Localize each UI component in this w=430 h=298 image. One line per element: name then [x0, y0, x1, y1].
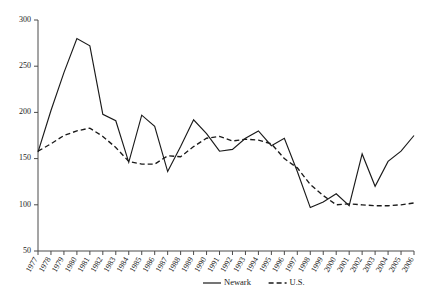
x-tick-label: 1997 [283, 256, 299, 274]
x-tick-label: 1989 [180, 256, 196, 274]
x-tick-label: 2001 [335, 256, 351, 274]
x-tick-label: 1982 [89, 256, 105, 274]
x-tick-label: 1980 [63, 256, 79, 274]
y-tick-label: 250 [19, 61, 31, 70]
legend-label-newark: Newark [224, 277, 252, 287]
x-tick-label: 1990 [192, 256, 208, 274]
y-tick-label: 50 [23, 246, 31, 255]
x-tick-label: 2004 [374, 256, 390, 274]
x-tick-label: 1988 [167, 256, 183, 274]
chart-legend: NewarkU.S. [203, 277, 305, 287]
y-tick-label: 200 [19, 107, 31, 116]
x-tick-label: 1992 [218, 256, 234, 274]
series-line-u-s [38, 128, 414, 206]
y-axis: 50100150200250300 [19, 15, 38, 255]
x-tick-label: 2003 [361, 256, 377, 274]
y-tick-label: 150 [19, 153, 31, 162]
x-tick-label: 1993 [231, 256, 247, 274]
x-tick-label: 1999 [309, 256, 325, 274]
y-tick-label: 300 [19, 15, 31, 24]
x-tick-label: 1978 [37, 256, 53, 274]
x-tick-label: 1983 [102, 256, 118, 274]
x-tick-label: 1984 [115, 256, 131, 274]
x-tick-label: 1979 [50, 256, 66, 274]
y-tick-label: 100 [19, 200, 31, 209]
x-tick-label: 1998 [296, 256, 312, 274]
x-tick-label: 1985 [128, 256, 144, 274]
x-axis: 1977197819791980198119821983198419851986… [24, 251, 416, 274]
chart-canvas: 50100150200250300 1977197819791980198119… [0, 0, 430, 298]
x-tick-label: 1995 [257, 256, 273, 274]
x-tick-label: 2006 [400, 256, 416, 274]
data-series-group [38, 38, 414, 207]
x-tick-label: 1987 [154, 256, 170, 274]
x-tick-label: 1977 [24, 256, 40, 274]
x-tick-label: 1994 [244, 256, 260, 274]
x-tick-label: 2002 [348, 256, 364, 274]
line-chart: 50100150200250300 1977197819791980198119… [0, 0, 430, 298]
legend-label-u-s: U.S. [290, 277, 305, 287]
x-tick-label: 1981 [76, 256, 92, 274]
x-tick-label: 2000 [322, 256, 338, 274]
series-line-newark [38, 38, 414, 207]
x-tick-label: 1986 [141, 256, 157, 274]
x-tick-label: 2005 [387, 256, 403, 274]
x-tick-label: 1991 [205, 256, 221, 274]
x-tick-label: 1996 [270, 256, 286, 274]
